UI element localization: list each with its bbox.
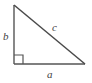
horizontal-leg-label: a [47,69,53,80]
hypotenuse-label: c [52,22,57,33]
triangle-diagram-svg [0,0,92,83]
right-angle-marker-icon [14,55,23,64]
vertical-leg-label: b [3,31,9,42]
right-triangle-figure: b a c [0,0,92,83]
hypotenuse-line [14,5,85,64]
